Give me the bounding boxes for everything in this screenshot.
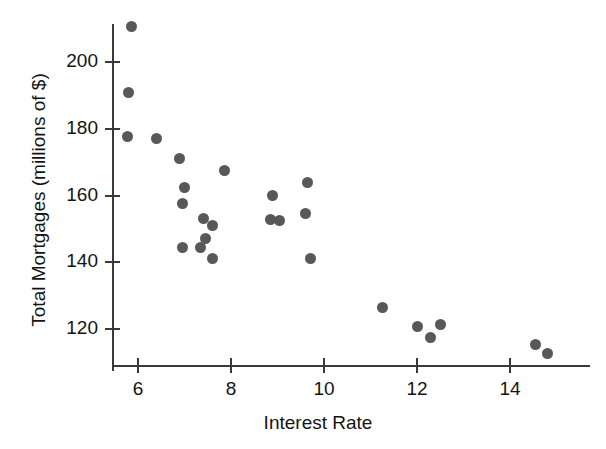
x-tick-label: 10 [304,378,344,400]
data-point [300,208,311,219]
x-axis-label-text: Interest Rate [264,412,373,434]
data-point [542,348,553,359]
data-point [302,177,313,188]
x-tick-label: 14 [490,378,530,400]
data-point [377,302,388,313]
data-point [122,131,133,142]
y-tick-mark [105,261,120,263]
y-axis-label: Total Mortgages (millions of $) [28,30,50,370]
x-tick-label: 6 [118,378,158,400]
data-point [126,21,137,32]
y-tick-mark [105,128,120,130]
data-point [530,339,541,350]
data-point [305,253,316,264]
plot-area: 120140160180200 68101214 Interest Rate T… [0,0,606,449]
data-point [207,220,218,231]
data-point [435,319,446,330]
x-axis-line [112,365,590,367]
y-tick-mark [105,328,120,330]
x-tick-label: 12 [397,378,437,400]
data-point [267,190,278,201]
data-point [151,133,162,144]
x-tick-label: 8 [211,378,251,400]
data-point [179,182,190,193]
data-point [274,215,285,226]
data-point [174,153,185,164]
data-point [195,242,206,253]
data-point [207,253,218,264]
scatter-plot-figure: 120140160180200 68101214 Interest Rate T… [0,0,606,449]
x-tick-mark [137,358,139,373]
data-point [123,87,134,98]
data-point [425,332,436,343]
data-point [412,321,423,332]
y-axis-line [112,24,114,371]
data-point [177,242,188,253]
data-point [219,165,230,176]
x-tick-mark [230,358,232,373]
x-tick-mark [323,358,325,373]
y-tick-mark [105,61,120,63]
y-tick-mark [105,195,120,197]
x-tick-mark [509,358,511,373]
x-axis-label: Interest Rate [0,412,606,434]
x-tick-mark [416,358,418,373]
data-point [177,198,188,209]
